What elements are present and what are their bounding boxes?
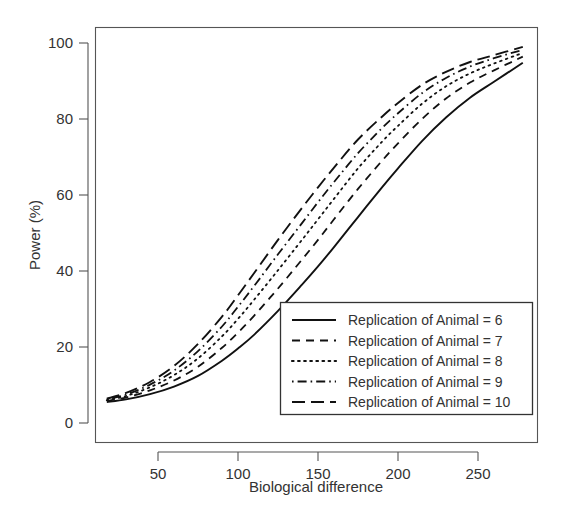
y-tick-label: 100 (48, 34, 73, 51)
x-axis-title: Biological difference (249, 478, 383, 495)
y-tick-label: 20 (56, 338, 73, 355)
y-tick-label: 0 (65, 414, 73, 431)
chart-canvas: 020406080100 50100150200250 Biological d… (0, 0, 566, 521)
x-tick-label: 200 (385, 465, 410, 482)
power-curve-figure: 020406080100 50100150200250 Biological d… (0, 0, 566, 521)
legend-item-label: Replication of Animal = 9 (348, 374, 503, 390)
y-tick-label: 40 (56, 262, 73, 279)
legend: Replication of Animal = 6Replication of … (281, 303, 533, 415)
x-tick-label: 250 (465, 465, 490, 482)
y-tick-label: 80 (56, 110, 73, 127)
legend-item-label: Replication of Animal = 10 (348, 394, 510, 410)
x-tick-label: 100 (225, 465, 250, 482)
x-tick-label: 50 (150, 465, 167, 482)
y-tick-label: 60 (56, 186, 73, 203)
y-axis-title: Power (%) (26, 200, 43, 270)
legend-item-label: Replication of Animal = 6 (348, 312, 503, 328)
legend-item-label: Replication of Animal = 7 (348, 333, 503, 349)
legend-item-label: Replication of Animal = 8 (348, 353, 503, 369)
y-axis: 020406080100 (48, 34, 88, 431)
